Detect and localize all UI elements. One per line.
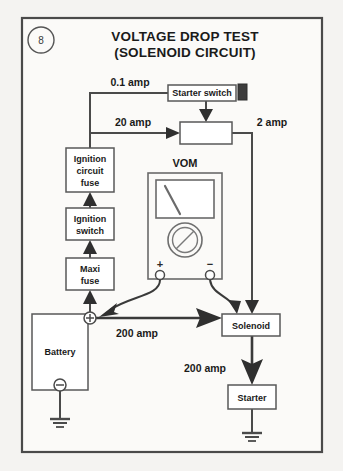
circuit-diagram: 8 VOLTAGE DROP TEST (SOLENOID CIRCUIT) xyxy=(0,0,343,471)
vom-label: VOM xyxy=(172,157,197,169)
page-title-line1: VOLTAGE DROP TEST xyxy=(111,29,259,44)
badge-number: 8 xyxy=(38,35,44,46)
maxi-fuse-label-line2: fuse xyxy=(81,276,100,286)
current-label-200-amp-starter: 200 amp xyxy=(184,362,226,374)
component-solenoid[interactable]: Solenoid xyxy=(222,314,280,336)
component-junction-box[interactable] xyxy=(180,122,232,144)
starter-switch-connector-icon xyxy=(238,84,247,100)
vom-positive-sign: + xyxy=(157,258,163,270)
component-ignition-circuit-fuse[interactable]: Ignition circuit fuse xyxy=(66,148,114,192)
component-maxi-fuse[interactable]: Maxi fuse xyxy=(66,258,114,290)
current-label-0-1-amp: 0.1 amp xyxy=(110,76,149,88)
current-label-20-amp: 20 amp xyxy=(115,116,151,128)
starter-label: Starter xyxy=(237,393,267,403)
component-ignition-switch[interactable]: Ignition switch xyxy=(66,208,114,240)
solenoid-label: Solenoid xyxy=(232,321,270,331)
junction-box xyxy=(180,122,232,144)
diagram-page: 8 VOLTAGE DROP TEST (SOLENOID CIRCUIT) xyxy=(0,0,343,471)
battery-label: Battery xyxy=(44,347,75,357)
page-title-line2: (SOLENOID CIRCUIT) xyxy=(114,45,256,60)
vom-positive-jack[interactable] xyxy=(156,271,165,280)
ignition-circuit-fuse-label-line1: Ignition xyxy=(74,154,107,164)
component-starter-switch[interactable]: Starter switch xyxy=(168,84,247,101)
vom-meter[interactable]: + − xyxy=(148,173,222,280)
starter-switch-label: Starter switch xyxy=(172,88,232,98)
ignition-switch-label-line2: switch xyxy=(76,226,104,236)
ignition-switch-label-line1: Ignition xyxy=(74,214,107,224)
ignition-circuit-fuse-label-line2: circuit xyxy=(76,166,103,176)
vom-negative-sign: − xyxy=(207,258,213,270)
component-starter[interactable]: Starter xyxy=(228,385,276,409)
ignition-circuit-fuse-label-line3: fuse xyxy=(81,178,100,188)
vom-negative-jack[interactable] xyxy=(206,271,215,280)
current-label-200-amp-battery: 200 amp xyxy=(116,327,158,339)
current-label-2-amp: 2 amp xyxy=(257,116,287,128)
component-battery[interactable]: Battery xyxy=(32,312,96,391)
maxi-fuse-label-line1: Maxi xyxy=(80,264,100,274)
